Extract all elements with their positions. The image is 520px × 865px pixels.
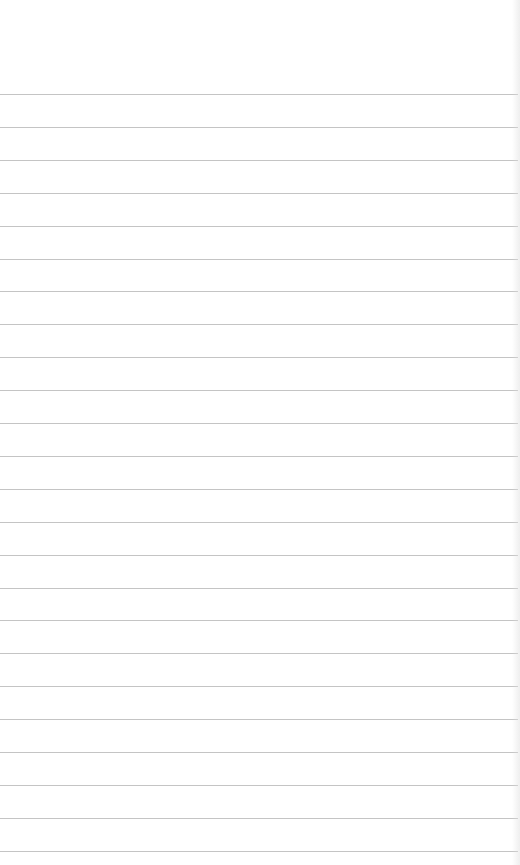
ruled-line <box>0 851 518 852</box>
ruled-line <box>0 423 518 424</box>
ruled-line <box>0 193 518 194</box>
ruled-line <box>0 291 518 292</box>
ruled-line <box>0 226 518 227</box>
ruled-line <box>0 653 518 654</box>
ruled-line <box>0 818 518 819</box>
ruled-line <box>0 259 518 260</box>
ruled-line <box>0 555 518 556</box>
ruled-line <box>0 127 518 128</box>
ruled-line <box>0 785 518 786</box>
ruled-line <box>0 522 518 523</box>
page-edge-shadow <box>512 0 520 865</box>
ruled-line <box>0 588 518 589</box>
ruled-line <box>0 686 518 687</box>
ruled-line <box>0 456 518 457</box>
ruled-line <box>0 719 518 720</box>
ruled-line <box>0 94 518 95</box>
ruled-line <box>0 357 518 358</box>
ruled-line <box>0 620 518 621</box>
notepad-page <box>0 0 520 865</box>
ruled-line <box>0 160 518 161</box>
ruled-line <box>0 489 518 490</box>
ruled-line <box>0 390 518 391</box>
ruled-line <box>0 752 518 753</box>
ruled-line <box>0 324 518 325</box>
